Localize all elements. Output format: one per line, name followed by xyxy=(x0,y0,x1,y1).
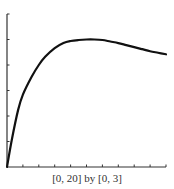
window-caption: [0, 20] by [0, 3] xyxy=(0,172,174,184)
data-curve xyxy=(7,39,166,167)
plot-area xyxy=(0,0,174,170)
ticks xyxy=(7,14,166,167)
axes xyxy=(7,14,166,167)
